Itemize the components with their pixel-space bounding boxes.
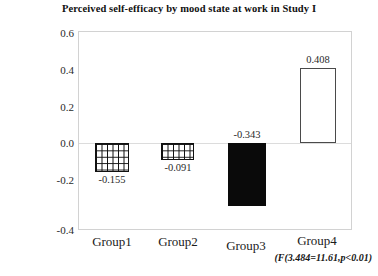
plot-inner: -0.155 -0.091 -0.343 0.408: [79, 32, 351, 229]
chart-title: Perceived self-efficacy by mood state at…: [0, 3, 378, 14]
value-label-group2: -0.091: [145, 162, 211, 173]
bar-group4[interactable]: [300, 68, 336, 143]
x-tick-label-group4: Group4: [267, 233, 367, 249]
plot-area: -0.155 -0.091 -0.343 0.408: [78, 31, 352, 230]
value-label-group4: 0.408: [285, 54, 351, 65]
y-tick-label-2: 0.2: [30, 102, 74, 113]
bar-group3[interactable]: [228, 143, 266, 206]
value-label-group1: -0.155: [79, 174, 145, 185]
y-tick-label-4: -0.2: [30, 175, 74, 186]
y-tick-label-3: 0.0: [30, 138, 74, 149]
bar-group2[interactable]: [161, 143, 194, 160]
y-tick-label-0: 0.6: [30, 28, 74, 39]
y-tick-label-1: 0.4: [30, 65, 74, 76]
bar-group1[interactable]: [95, 143, 129, 172]
chart-figure: Perceived self-efficacy by mood state at…: [0, 0, 378, 276]
statistical-annotation: (F(3.484=11.61,p<0.01): [274, 252, 372, 263]
value-label-group3: -0.343: [214, 129, 280, 140]
